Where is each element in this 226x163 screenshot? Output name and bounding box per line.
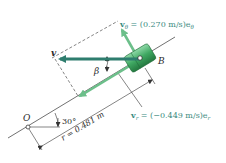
label-v: v [51,48,57,58]
angle-30-arc [55,113,58,127]
pin-b [138,56,142,60]
label-vtheta: vθ = (0.270 m/s)eθ [119,19,195,30]
label-radius: r = 0.481 m [59,110,106,143]
dashed-line-top [52,21,118,58]
radius-extension-line-b [145,68,155,84]
label-o: O [23,113,31,123]
dashed-line-left [55,59,78,96]
vr-leader-line [118,73,142,107]
label-b: B [157,56,165,66]
pivot-o [26,125,30,129]
label-angle-30: 30° [62,117,76,126]
label-beta: β [93,66,99,76]
radius-extension-line-o [29,129,42,150]
kinematics-diagram: v β B O 30° r = 0.481 m vθ = (0.270 m/s)… [0,0,226,163]
vr-vector-arrow [80,62,136,96]
label-radius-group: r = 0.481 m [59,110,106,143]
label-vr: vr = (−0.449 m/s)er [130,110,211,121]
